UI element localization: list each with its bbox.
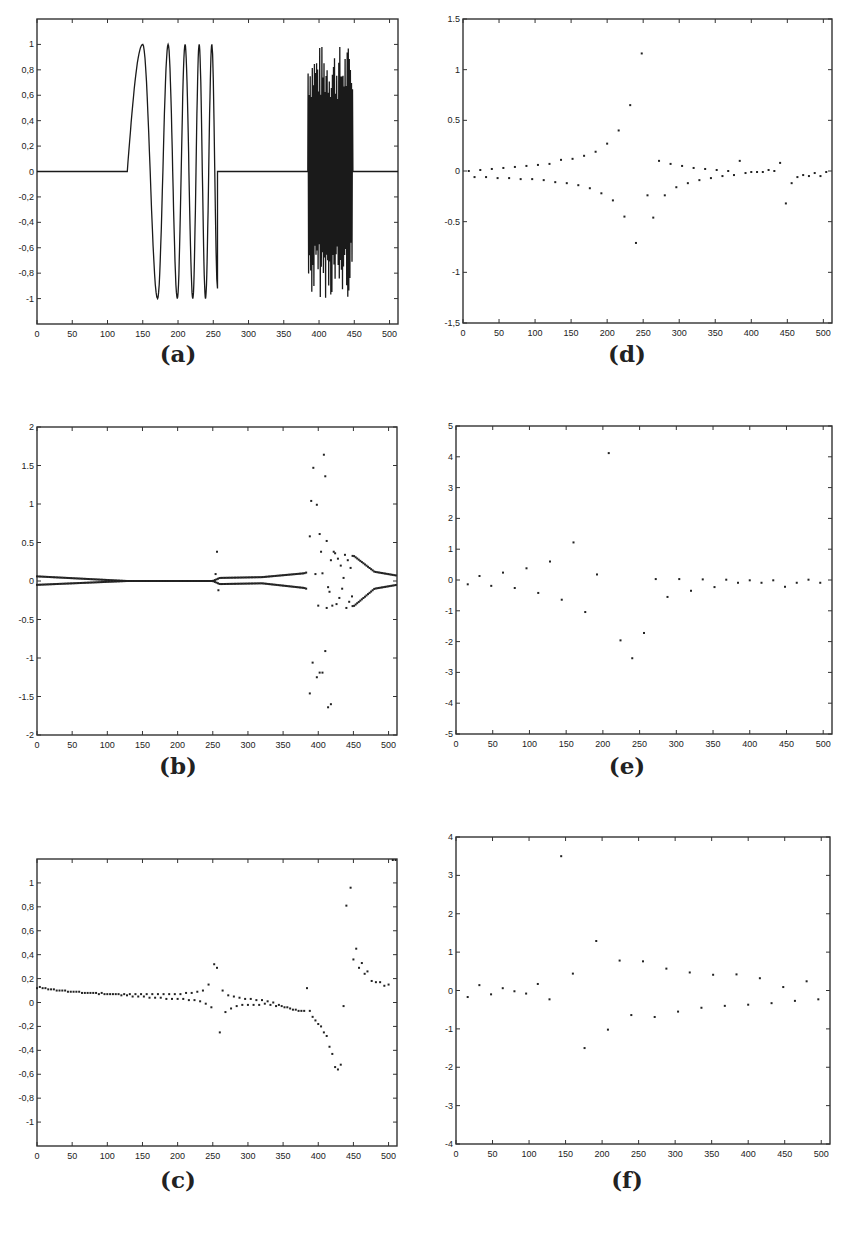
y-tick-label: 1 xyxy=(29,878,34,888)
x-tick-label: 500 xyxy=(816,739,831,749)
panel-c: 050100150200250300350400450500-1-0,8-0,6… xyxy=(37,859,397,1146)
x-tick-label: 350 xyxy=(706,739,721,749)
x-tick-label: 400 xyxy=(311,1151,326,1161)
y-tick-label: -1 xyxy=(26,1117,34,1127)
x-tick-label: 100 xyxy=(100,1151,115,1161)
y-tick-label: -0,4 xyxy=(18,1045,34,1055)
y-tick-label: 0 xyxy=(448,575,453,585)
y-tick-label: 3 xyxy=(448,870,453,880)
axes-frame xyxy=(463,19,832,323)
plot-area xyxy=(36,454,397,709)
x-tick-label: 250 xyxy=(206,329,221,339)
y-tick-label: -1 xyxy=(26,294,34,304)
y-tick-label: -0,8 xyxy=(18,268,34,278)
caption-c: (c) xyxy=(138,1166,218,1193)
x-tick-label: 350 xyxy=(704,1149,719,1159)
y-tick-label: 1.5 xyxy=(21,461,34,471)
x-tick-label: 200 xyxy=(595,739,610,749)
x-tick-label: 350 xyxy=(276,329,291,339)
x-tick-label: 450 xyxy=(346,1151,361,1161)
x-tick-label: 200 xyxy=(170,740,185,750)
x-tick-label: 200 xyxy=(170,1151,185,1161)
x-tick-label: 500 xyxy=(816,328,831,338)
panel-d: 050100150200250300350400450500-1,5-1-0.5… xyxy=(463,19,832,323)
x-tick-label: 100 xyxy=(522,1149,537,1159)
panel-b: 050100150200250300350400450500-2-1.5-1-0… xyxy=(37,427,397,735)
y-tick-label: -2 xyxy=(445,1062,453,1072)
chart-a: 050100150200250300350400450500-1-0,8-0,6… xyxy=(37,19,398,324)
y-tick-label: 3 xyxy=(448,483,453,493)
x-tick-label: 450 xyxy=(777,1149,792,1159)
y-tick-label: 2 xyxy=(448,513,453,523)
x-tick-label: 250 xyxy=(636,328,651,338)
panel-f: 050100150200250300350400450500-4-3-2-101… xyxy=(456,837,830,1144)
x-tick-label: 300 xyxy=(669,739,684,749)
y-tick-label: -0,6 xyxy=(18,1069,34,1079)
y-tick-label: 0 xyxy=(29,576,34,586)
axes-frame xyxy=(37,859,397,1146)
x-tick-label: 450 xyxy=(346,740,361,750)
y-tick-label: 0,2 xyxy=(21,141,34,151)
y-tick-label: 0,4 xyxy=(21,950,34,960)
y-tick-label: -4 xyxy=(445,1139,453,1149)
y-tick-label: -2 xyxy=(445,637,453,647)
x-tick-label: 400 xyxy=(742,739,757,749)
x-tick-label: 300 xyxy=(240,1151,255,1161)
x-tick-label: 350 xyxy=(276,1151,291,1161)
y-tick-label: 0,8 xyxy=(21,65,34,75)
plot-area xyxy=(37,44,398,298)
x-tick-label: 400 xyxy=(741,1149,756,1159)
x-tick-label: 300 xyxy=(668,1149,683,1159)
panel-a: 050100150200250300350400450500-1-0,8-0,6… xyxy=(37,19,398,324)
signal-line xyxy=(37,44,398,298)
chart-f: 050100150200250300350400450500-4-3-2-101… xyxy=(456,837,830,1144)
x-tick-label: 0 xyxy=(34,1151,39,1161)
y-tick-label: 0,6 xyxy=(21,926,34,936)
y-tick-label: 1 xyxy=(448,947,453,957)
y-tick-label: -5 xyxy=(445,729,453,739)
y-tick-label: -2 xyxy=(26,730,34,740)
y-tick-label: 0.5 xyxy=(21,538,34,548)
x-tick-label: 500 xyxy=(381,740,396,750)
y-tick-label: -0.5 xyxy=(444,217,460,227)
x-tick-label: 150 xyxy=(558,1149,573,1159)
y-tick-label: 1 xyxy=(29,499,34,509)
y-tick-label: 0 xyxy=(29,998,34,1008)
x-tick-label: 150 xyxy=(135,329,150,339)
x-tick-label: 350 xyxy=(708,328,723,338)
plot-area xyxy=(467,452,822,659)
panel-e: 050100150200250300350400450500-5-4-3-2-1… xyxy=(456,426,832,734)
y-tick-label: 2 xyxy=(448,909,453,919)
chart-d: 050100150200250300350400450500-1,5-1-0.5… xyxy=(463,19,832,323)
y-tick-label: -1 xyxy=(452,267,460,277)
x-tick-label: 450 xyxy=(780,328,795,338)
x-tick-label: 500 xyxy=(381,1151,396,1161)
x-tick-label: 250 xyxy=(205,1151,220,1161)
x-tick-label: 0 xyxy=(460,328,465,338)
chart-e: 050100150200250300350400450500-5-4-3-2-1… xyxy=(456,426,832,734)
y-tick-label: -3 xyxy=(445,1101,453,1111)
plot-area xyxy=(36,859,397,1070)
x-tick-label: 0 xyxy=(34,329,39,339)
x-tick-label: 50 xyxy=(67,329,77,339)
caption-d: (d) xyxy=(587,340,667,367)
y-tick-label: 0,2 xyxy=(21,974,34,984)
x-tick-label: 400 xyxy=(311,740,326,750)
y-tick-label: -1 xyxy=(26,653,34,663)
y-tick-label: 0 xyxy=(29,167,34,177)
y-tick-label: -0,2 xyxy=(18,1021,34,1031)
y-tick-label: 1 xyxy=(455,65,460,75)
caption-a: (a) xyxy=(138,340,218,367)
x-tick-label: 150 xyxy=(564,328,579,338)
y-tick-label: -0,4 xyxy=(18,217,34,227)
x-tick-label: 500 xyxy=(382,329,397,339)
x-tick-label: 500 xyxy=(814,1149,829,1159)
x-tick-label: 100 xyxy=(100,740,115,750)
x-tick-label: 0 xyxy=(34,740,39,750)
x-tick-label: 200 xyxy=(171,329,186,339)
x-tick-label: 250 xyxy=(632,739,647,749)
y-tick-label: -1 xyxy=(445,1024,453,1034)
x-tick-label: 300 xyxy=(241,329,256,339)
x-tick-label: 0 xyxy=(453,739,458,749)
x-tick-label: 50 xyxy=(67,740,77,750)
